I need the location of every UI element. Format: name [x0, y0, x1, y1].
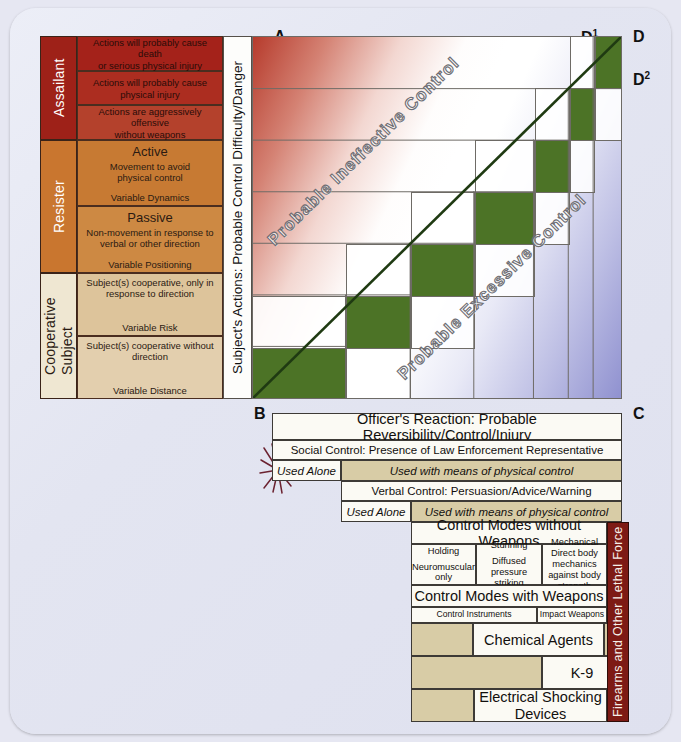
mode-impact-weapons: Impact Weapons: [537, 607, 607, 623]
category-label: Resister: [51, 180, 67, 233]
row-variable: Variable Distance: [78, 385, 222, 396]
category-resister: Resister: [40, 140, 77, 273]
subject-row-5: Subject(s) cooperative, only inresponse …: [77, 273, 223, 336]
subject-row-6: Subject(s) cooperative withoutdirection …: [77, 336, 223, 399]
corner-label-d: D: [633, 28, 645, 46]
chemical-agents-tan-left: [411, 623, 473, 656]
mode-stunning: Stunning Diffused pressure striking: [476, 544, 542, 585]
band-social-control: Social Control: Presence of Law Enforcem…: [272, 440, 622, 460]
mode-name: Holding: [428, 546, 460, 557]
band-chemical-agents: Chemical Agents: [473, 623, 604, 656]
band-firearms-lethal-force: Firearms and Other Lethal Force: [607, 522, 629, 722]
row-variable: Variable Dynamics: [78, 192, 222, 203]
social-used-with-physical-control: Used with means of physical control: [341, 460, 622, 481]
band-control-modes-with-weapons: Control Modes with Weapons: [411, 585, 607, 607]
mode-control-instruments: Control Instruments: [411, 607, 537, 623]
corner-label-c: C: [633, 405, 645, 423]
row-heading: Active: [132, 144, 167, 160]
row-variable: Variable Positioning: [78, 259, 222, 270]
category-label: Assailant: [51, 59, 67, 118]
mode-mechanical: Mechanical Direct body mechanics against…: [542, 544, 607, 585]
subject-row-0: Actions will probably cause deathor seri…: [77, 36, 223, 71]
mode-holding: Holding Neuromuscular only: [411, 544, 476, 585]
band-electrical-shocking-devices: Electrical Shocking Devices: [474, 689, 607, 722]
officer-axis-label: Officer's Reaction: Probable Reversibili…: [272, 413, 622, 440]
control-matrix: Probable Ineffective Control Probable Ex…: [252, 36, 622, 399]
social-used-alone: Used Alone: [272, 460, 341, 481]
mode-detail: Neuromuscular only: [412, 562, 475, 584]
subject-row-4: Passive Non-movement in response toverba…: [77, 206, 223, 273]
category-cooperative-subject: Cooperative Subject: [40, 273, 77, 399]
band-verbal-control: Verbal Control: Persuasion/Advice/Warnin…: [341, 481, 622, 501]
verbal-used-alone: Used Alone: [341, 501, 411, 522]
subject-row-3: Active Movement to avoidphysical control…: [77, 140, 223, 206]
subject-row-1: Actions will probably causephysical inju…: [77, 71, 223, 105]
category-label: Cooperative Subject: [42, 297, 74, 375]
row-heading: Passive: [127, 210, 173, 226]
subject-row-2: Actions are aggressively offensivewithou…: [77, 105, 223, 140]
corner-label-b: B: [254, 405, 266, 423]
category-assailant: Assailant: [40, 36, 77, 140]
k9-tan-left: [411, 656, 542, 689]
mode-name: Mechanical: [551, 537, 598, 548]
force-continuum-poster: A D D1 D2 B C Assailant Resister Coopera…: [10, 8, 671, 734]
row-variable: Variable Risk: [78, 322, 222, 333]
subject-axis-label: Subject's Actions: Probable Control Diff…: [223, 36, 252, 399]
electrical-tan-left: [411, 689, 474, 722]
mode-detail: Diffused pressure striking: [477, 556, 541, 589]
corner-label-d2: D2: [633, 70, 650, 89]
mode-name: Stunning: [491, 540, 528, 551]
